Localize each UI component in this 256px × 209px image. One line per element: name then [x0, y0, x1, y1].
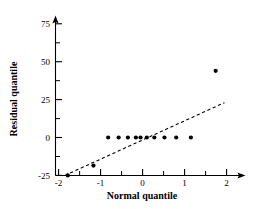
data-point: [152, 135, 156, 139]
data-point: [106, 135, 110, 139]
data-point: [117, 135, 121, 139]
y-tick-label-minus25: -25: [38, 171, 50, 181]
x-tick-label-minus2: -2: [55, 178, 63, 188]
data-point: [91, 163, 95, 167]
data-point: [174, 135, 178, 139]
data-point: [66, 173, 70, 177]
chart-canvas: 75 50 25 0 -25 Residual quantile -2 -1 0…: [0, 0, 256, 209]
data-point: [145, 135, 149, 139]
x-tick-label-1: 1: [182, 178, 187, 188]
x-tick-label-2: 2: [224, 178, 229, 188]
data-point: [162, 135, 166, 139]
x-tick-label-minus1: -1: [97, 178, 105, 188]
data-point: [214, 69, 218, 73]
data-point: [134, 135, 138, 139]
x-axis-title: Normal quantile: [107, 190, 178, 201]
y-axis-title: Residual quantile: [8, 61, 19, 136]
y-axis-group: 75 50 25 0 -25 Residual quantile: [8, 16, 62, 182]
data-point: [189, 135, 193, 139]
data-point: [126, 135, 130, 139]
qq-plot-figure: 75 50 25 0 -25 Residual quantile -2 -1 0…: [0, 0, 256, 209]
data-point: [138, 135, 142, 139]
y-tick-label-25: 25: [41, 95, 51, 105]
y-tick-label-0: 0: [46, 133, 51, 143]
y-tick-label-50: 50: [41, 57, 51, 67]
x-axis-group: -2 -1 0 1 2 Normal quantile: [55, 169, 246, 201]
y-tick-label-75: 75: [41, 19, 51, 29]
data-points-layer: [66, 69, 218, 178]
normal-reference-line: [65, 103, 225, 176]
x-tick-label-0: 0: [140, 178, 145, 188]
